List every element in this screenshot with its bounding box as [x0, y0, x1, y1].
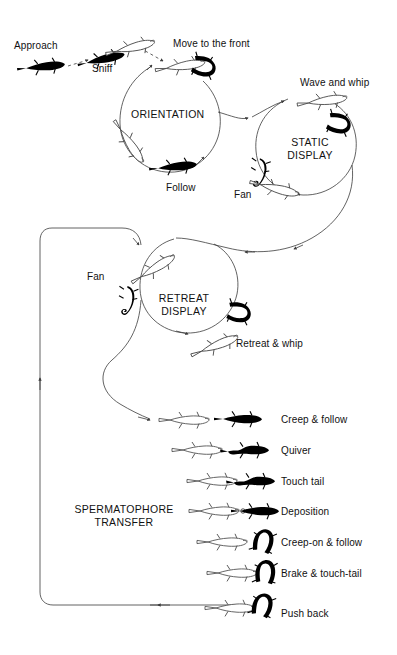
figure-male-quiver	[220, 442, 269, 458]
figure-female-touch-tail	[187, 473, 237, 490]
figure-male-approach	[16, 56, 65, 77]
static-to-retreat-arc	[176, 165, 353, 252]
arrow-sniff-to-front	[140, 48, 163, 61]
figure-female-follow	[107, 116, 149, 167]
label-touch-tail: Touch tail	[281, 476, 324, 488]
figure-male-retreat-whip	[226, 298, 251, 325]
arrow-loop-into-fan	[133, 238, 139, 245]
figure-male-follow	[148, 156, 197, 177]
label-fan-static: Fan	[234, 189, 252, 201]
figure-female-retreat-whip	[188, 329, 241, 363]
figure-female-creep-on	[197, 534, 247, 551]
courtship-ethogram-diagram: Approach Sniff Move to the front ORIENTA…	[0, 0, 397, 655]
static-to-retreat-connector	[176, 165, 353, 252]
figure-female-fan-static	[248, 174, 301, 202]
label-sniff: Sniff	[92, 63, 112, 75]
phase-label-static-display: STATIC DISPLAY	[280, 136, 340, 162]
phase-label-orientation: ORIENTATION	[131, 108, 205, 121]
label-quiver: Quiver	[281, 445, 311, 457]
phase-transfer-line1: SPERMATOPHORE	[66, 503, 182, 516]
diagram-canvas	[0, 0, 397, 655]
retreat-to-transfer-arc	[103, 300, 150, 419]
return-loop-path	[40, 228, 160, 605]
label-deposition: Deposition	[281, 506, 329, 518]
phase-label-retreat-display: RETREAT DISPLAY	[152, 292, 216, 318]
label-follow: Follow	[166, 182, 196, 194]
arrow-orientation-top	[147, 65, 152, 70]
phase-label-spermatophore-transfer: SPERMATOPHORE TRANSFER	[66, 503, 182, 529]
phase-static-line1: STATIC	[280, 136, 340, 149]
retreat-display-cycle	[140, 239, 238, 334]
label-creep-and-follow: Creep & follow	[281, 414, 347, 426]
orientation-to-static-connector	[218, 101, 284, 119]
label-wave-and-whip: Wave and whip	[300, 77, 369, 89]
phase-retreat-line2: DISPLAY	[152, 305, 216, 318]
figure-female-fan-retreat	[128, 249, 180, 290]
figure-male-wave-whip	[325, 109, 352, 137]
label-approach: Approach	[14, 40, 58, 52]
retreat-circle-arc	[140, 239, 238, 333]
figure-female-brake-touch-tail	[207, 565, 257, 582]
phase-static-line2: DISPLAY	[280, 149, 340, 162]
figure-female-push-back	[205, 600, 255, 617]
figure-female-quiver	[172, 442, 222, 459]
arrow-orientation-to-static	[218, 112, 248, 119]
main-return-loop	[40, 228, 160, 605]
label-fan-retreat: Fan	[87, 271, 105, 283]
figure-male-fan-retreat	[116, 285, 138, 316]
figure-male-deposition	[231, 503, 279, 519]
label-move-to-the-front: Move to the front	[173, 38, 250, 50]
figure-male-creep-follow	[214, 411, 262, 427]
figure-female-creep-follow	[159, 412, 209, 429]
figure-female-wave-whip	[296, 89, 348, 113]
phase-retreat-line1: RETREAT	[152, 292, 216, 305]
figure-male-creep-on	[248, 528, 277, 555]
phase-transfer-line2: TRANSFER	[66, 516, 182, 529]
label-creep-on-and-follow: Creep-on & follow	[281, 537, 362, 549]
label-push-back: Push back	[281, 608, 329, 620]
label-retreat-and-whip: Retreat & whip	[236, 338, 303, 350]
arrow-retreat-bottom	[176, 331, 188, 334]
retreat-to-transfer-connector	[103, 300, 150, 420]
label-brake-and-touch-tail: Brake & touch-tail	[281, 568, 362, 580]
